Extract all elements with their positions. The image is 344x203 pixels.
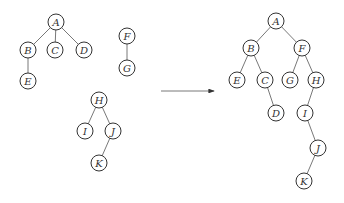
binary-tree-node-b: B — [243, 40, 259, 56]
forest-node-e: E — [20, 73, 36, 89]
node-label: A — [271, 16, 279, 27]
binary-tree-node-f: F — [294, 40, 310, 56]
node-label: G — [123, 63, 131, 74]
node-label: E — [232, 75, 241, 86]
forest-node-b: B — [20, 42, 36, 58]
binary-tree-node-d: D — [268, 105, 284, 121]
binary-tree-node-g: G — [282, 72, 298, 88]
forest-node-a: A — [48, 14, 64, 30]
diagram-canvas: ABCDEFGHIJK ABFECGHDIJK — [0, 0, 344, 203]
node-label: D — [79, 45, 88, 56]
node-label: E — [23, 76, 32, 87]
node-label: K — [94, 158, 103, 169]
forest-node-f: F — [119, 28, 135, 44]
node-label: B — [23, 45, 31, 56]
node-label: K — [299, 176, 308, 187]
node-label: F — [298, 43, 307, 54]
forest-node-g: G — [119, 60, 135, 76]
binary-tree-node-a: A — [268, 13, 284, 29]
node-label: F — [123, 31, 132, 42]
node-label: J — [109, 126, 116, 137]
binary-tree-group: ABFECGHDIJK — [229, 13, 326, 189]
binary-tree-node-k: K — [296, 173, 312, 189]
binary-tree-node-i: I — [297, 105, 313, 121]
node-label: G — [286, 75, 294, 86]
node-label: B — [246, 43, 254, 54]
forest-node-c: C — [47, 42, 63, 58]
binary-tree-node-e: E — [229, 72, 245, 88]
binary-tree-node-c: C — [257, 72, 273, 88]
forest-node-d: D — [76, 42, 92, 58]
node-label: A — [51, 17, 59, 28]
forest-node-i: I — [77, 123, 93, 139]
forest-node-h: H — [91, 92, 107, 108]
binary-tree-node-h: H — [308, 72, 324, 88]
node-label: H — [311, 75, 321, 86]
node-label: H — [94, 95, 104, 106]
binary-tree-node-j: J — [310, 140, 326, 156]
node-label: C — [51, 45, 59, 56]
node-label: D — [271, 108, 280, 119]
forest-node-j: J — [105, 123, 121, 139]
forest-node-k: K — [91, 155, 107, 171]
forest-group: ABCDEFGHIJK — [20, 14, 135, 171]
node-label: J — [314, 143, 321, 154]
node-label: C — [261, 75, 269, 86]
